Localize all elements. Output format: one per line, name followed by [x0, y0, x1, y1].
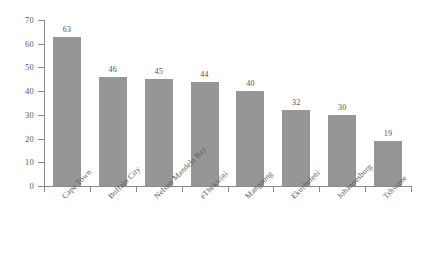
bar-value-label: 45	[139, 68, 179, 76]
bar	[191, 82, 219, 186]
bar	[99, 77, 127, 186]
bar	[145, 79, 173, 186]
bar-value-label: 30	[322, 104, 362, 112]
bar-value-label: 63	[47, 26, 87, 34]
bar-value-label: 44	[185, 71, 225, 79]
bar	[236, 91, 264, 186]
bar-value-label: 32	[276, 99, 316, 107]
bar	[282, 110, 310, 186]
bar-value-label: 46	[93, 66, 133, 74]
bars-layer: 6346454440323019	[0, 0, 431, 280]
bar	[328, 115, 356, 186]
bar	[53, 37, 81, 186]
bar-value-label: 40	[230, 80, 270, 88]
bar-chart: 010203040506070 6346454440323019 Cape To…	[0, 0, 431, 280]
bar-value-label: 19	[368, 130, 408, 138]
